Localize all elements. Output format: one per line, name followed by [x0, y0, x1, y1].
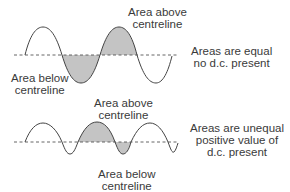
label-line: centreline: [128, 18, 187, 30]
label-line: Area above: [94, 97, 153, 109]
description-line: d.c. present: [190, 146, 284, 158]
description-line: Areas are equal: [191, 45, 272, 57]
top-label-area-above: Area above centreline: [128, 6, 187, 30]
bottom-label-area-below: Area below centreline: [98, 168, 156, 192]
bottom-waveform: [14, 122, 178, 154]
description-line: no d.c. present: [191, 57, 272, 69]
label-line: centreline: [94, 109, 153, 121]
top-description: Areas are equal no d.c. present: [191, 45, 272, 69]
label-line: Area above: [128, 6, 187, 18]
label-line: Area below: [11, 72, 69, 84]
label-line: centreline: [11, 84, 69, 96]
description-line: Areas are unequal: [190, 122, 284, 134]
label-line: Area below: [98, 168, 156, 180]
bottom-description: Areas are unequal positive value of d.c.…: [190, 122, 284, 158]
description-line: positive value of: [190, 134, 284, 146]
top-label-area-below: Area below centreline: [11, 72, 69, 96]
bottom-label-area-above: Area above centreline: [94, 97, 153, 121]
label-line: centreline: [98, 180, 156, 192]
